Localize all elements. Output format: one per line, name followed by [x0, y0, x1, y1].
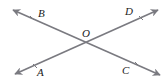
- point-label-B: B: [38, 7, 45, 19]
- point-label-A: A: [36, 66, 44, 78]
- point-label-C: C: [122, 64, 130, 76]
- point-label-D: D: [124, 5, 133, 17]
- point-label-O: O: [82, 27, 90, 39]
- intersecting-lines-diagram: B D A C O: [0, 0, 168, 84]
